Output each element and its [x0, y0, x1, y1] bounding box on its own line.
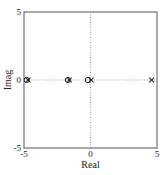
xtick-right: 5: [155, 149, 160, 159]
x-axis-label: Real: [81, 159, 100, 170]
ytick-top: 5: [17, 7, 22, 17]
pole-zero-plot: 5 0 -5 -5 0 5 Real Imag: [0, 0, 168, 175]
ytick-mid: 0: [17, 75, 22, 85]
xtick-left: -5: [20, 149, 28, 159]
y-axis-label: Imag: [2, 70, 13, 91]
xtick-mid: 0: [88, 149, 93, 159]
